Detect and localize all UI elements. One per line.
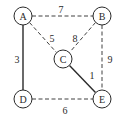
node-label-e: E [99, 94, 105, 105]
edge-label-a-b: 7 [59, 4, 64, 15]
node-label-c: C [60, 54, 67, 65]
node-b: B [93, 7, 111, 25]
node-d: D [14, 90, 32, 108]
node-label-b: B [99, 11, 106, 22]
graph-diagram: 7 5 3 8 9 1 6 A B C D E [0, 0, 124, 120]
node-a: A [14, 7, 32, 25]
graph-canvas: 7 5 3 8 9 1 6 A B C D E [0, 0, 124, 120]
edge-label-c-e: 1 [90, 70, 95, 81]
edge-label-b-c: 8 [73, 33, 78, 44]
edge-label-b-e: 9 [108, 54, 113, 65]
node-label-a: A [19, 11, 27, 22]
node-c: C [54, 50, 72, 68]
edge-label-d-e: 6 [63, 105, 68, 116]
node-label-d: D [19, 94, 26, 105]
node-e: E [93, 90, 111, 108]
edge-label-a-c: 5 [50, 33, 55, 44]
edge-label-a-d: 3 [15, 54, 20, 65]
